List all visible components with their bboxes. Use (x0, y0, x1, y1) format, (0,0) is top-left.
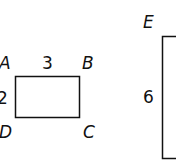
rectangle-e (163, 37, 177, 159)
side-label-height-2: 6 (143, 87, 154, 107)
side-label-width: 3 (42, 53, 53, 73)
vertex-label-b: B (82, 53, 94, 73)
side-label-height: 2 (0, 88, 8, 108)
vertex-label-a: A (0, 53, 11, 73)
vertex-label-d: D (0, 122, 12, 142)
vertex-label-e: E (143, 12, 154, 32)
rectangle-abcd (16, 77, 80, 118)
vertex-label-c: C (83, 122, 95, 142)
rectangles-diagram: A 3 B 2 D C E 6 (0, 0, 176, 164)
